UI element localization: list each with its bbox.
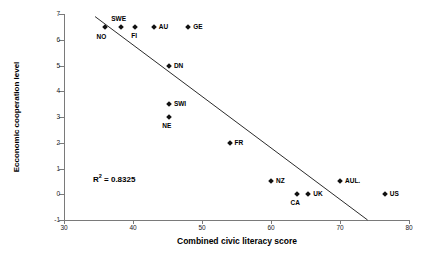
- trendline: [64, 14, 409, 220]
- x-axis-line: [64, 220, 410, 221]
- x-axis-tick-label: 70: [336, 225, 343, 232]
- y-axis-tick-label: 5: [56, 62, 60, 69]
- data-point-label: AU: [159, 24, 168, 31]
- data-point-label: CA: [291, 200, 300, 207]
- data-point-label: NE: [162, 123, 171, 130]
- y-axis-tick-label: 7: [56, 11, 60, 18]
- r-squared-value: = 0.8325: [102, 175, 136, 184]
- data-point-label: NZ: [276, 178, 285, 185]
- x-axis-tick-label: 40: [129, 225, 136, 232]
- data-point-label: FR: [235, 140, 244, 147]
- y-axis-tick-label: 2: [56, 140, 60, 147]
- x-axis-tick-label: 80: [405, 225, 412, 232]
- y-axis-title-wrap: Ecconomic cooperation level: [18, 14, 28, 220]
- plot-area: R2 = 0.8325 -101234567304050607080NOSWEF…: [64, 14, 409, 220]
- data-point-label: GE: [193, 24, 202, 31]
- data-point-label: UK: [313, 191, 322, 198]
- y-axis-tick-label: 4: [56, 88, 60, 95]
- y-axis-tick-label: 6: [56, 37, 60, 44]
- x-axis-tick-label: 50: [198, 225, 205, 232]
- data-point-label: US: [390, 191, 399, 198]
- data-point-label: FI: [131, 33, 137, 40]
- data-point-label: SWI: [174, 101, 186, 108]
- y-axis-tick-label: 0: [56, 191, 60, 198]
- scatter-chart: Ecconomic cooperation level R2 = 0.8325 …: [0, 0, 433, 257]
- x-axis-tick-label: 30: [60, 225, 67, 232]
- data-point-label: SWE: [111, 16, 126, 23]
- y-axis-title: Ecconomic cooperation level: [12, 62, 21, 173]
- y-axis-tick-label: 1: [56, 165, 60, 172]
- y-axis-tick-label: 3: [56, 114, 60, 121]
- y-axis-tick-label: -1: [54, 217, 60, 224]
- data-point-label: DN: [174, 63, 183, 70]
- x-axis-title: Combined civic literacy score: [64, 236, 410, 246]
- data-point-label: NO: [97, 34, 107, 41]
- x-axis-tick-label: 60: [267, 225, 274, 232]
- r-squared-annotation: R2 = 0.8325: [93, 173, 135, 184]
- data-point-label: AUL.: [345, 178, 360, 185]
